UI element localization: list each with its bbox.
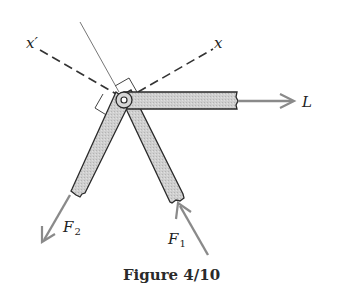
figure-caption: Figure 4/10 <box>0 266 343 284</box>
force-arrow-l <box>238 94 294 108</box>
truss-joint-diagram: L F2 F1 x′ x <box>0 0 343 293</box>
pin-hole <box>121 97 127 103</box>
label-l: L <box>301 93 312 111</box>
x-prime-axis <box>40 50 118 95</box>
label-f2: F2 <box>62 218 81 237</box>
member-l <box>124 92 238 109</box>
x-axis <box>138 49 213 92</box>
reference-line <box>80 22 119 92</box>
label-x: x <box>214 34 223 52</box>
label-f1: F1 <box>167 230 186 249</box>
label-x-prime: x′ <box>26 34 38 52</box>
